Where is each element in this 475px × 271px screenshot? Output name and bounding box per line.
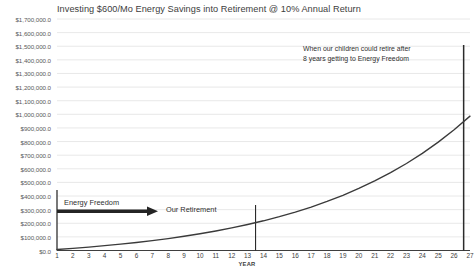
x-axis-tick-label: 9 bbox=[182, 252, 186, 259]
children-retire-annotation-line1: When our children could retire after bbox=[303, 44, 411, 54]
x-axis-tick-label: 25 bbox=[435, 252, 442, 259]
x-axis-tick-label: 17 bbox=[308, 252, 315, 259]
x-axis-tick-label: 8 bbox=[166, 252, 170, 259]
x-axis-tick-label: 1 bbox=[55, 252, 59, 259]
children-retire-annotation-line2: 8 years getting to Energy Freedom bbox=[303, 54, 411, 64]
chart-container: Investing $600/Mo Energy Savings into Re… bbox=[0, 0, 475, 271]
x-axis-tick-label: 11 bbox=[213, 252, 220, 259]
x-axis-tick-label: 7 bbox=[151, 252, 155, 259]
arrow-head bbox=[147, 206, 158, 216]
x-axis-tick-label: 5 bbox=[119, 252, 123, 259]
x-axis-tick-labels: 1234567891011121314151617181920212223242… bbox=[0, 252, 475, 264]
x-axis-title: YEAR bbox=[239, 261, 256, 267]
x-axis-tick-label: 14 bbox=[260, 252, 267, 259]
x-axis-tick-label: 4 bbox=[103, 252, 107, 259]
energy-freedom-label: Energy Freedom bbox=[64, 198, 119, 208]
plot-area bbox=[0, 0, 475, 271]
x-axis-tick-label: 22 bbox=[387, 252, 394, 259]
x-axis-tick-label: 10 bbox=[196, 252, 203, 259]
children-retire-annotation: When our children could retire after 8 y… bbox=[303, 44, 411, 63]
x-axis-tick-label: 15 bbox=[276, 252, 283, 259]
x-axis-tick-label: 21 bbox=[371, 252, 378, 259]
x-axis-tick-label: 18 bbox=[323, 252, 330, 259]
x-axis-tick-label: 26 bbox=[451, 252, 458, 259]
x-axis-tick-label: 20 bbox=[355, 252, 362, 259]
x-axis-tick-label: 6 bbox=[135, 252, 139, 259]
x-axis-tick-label: 19 bbox=[339, 252, 346, 259]
x-axis-tick-label: 24 bbox=[419, 252, 426, 259]
x-axis-tick-label: 27 bbox=[466, 252, 473, 259]
x-axis-tick-label: 3 bbox=[87, 252, 91, 259]
x-axis-tick-label: 12 bbox=[228, 252, 235, 259]
our-retirement-label: Our Retirement bbox=[166, 205, 217, 215]
x-axis-tick-label: 2 bbox=[71, 252, 75, 259]
x-axis-tick-label: 16 bbox=[292, 252, 299, 259]
marker-lines bbox=[256, 45, 464, 251]
x-axis-tick-label: 23 bbox=[403, 252, 410, 259]
x-axis-tick-label: 13 bbox=[244, 252, 251, 259]
energy-freedom-arrow bbox=[57, 206, 158, 216]
